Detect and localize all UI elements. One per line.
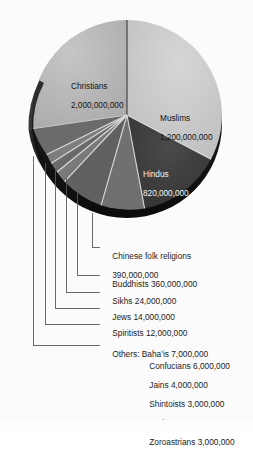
callout-others-zoroastrians: Zoroastrians 3,000,000 bbox=[149, 437, 234, 447]
pie-label-hindus: Hindus 820,000,000 bbox=[134, 160, 189, 208]
pie-label-hindus-value: 820,000,000 bbox=[143, 188, 189, 198]
pie-label-hindus-name: Hindus bbox=[143, 169, 169, 179]
callout-others-jains: Jains 4,000,000 bbox=[149, 380, 208, 390]
pie-label-muslims-value: 1,200,000,000 bbox=[160, 132, 212, 142]
callout-chinese-name: Chinese folk religions bbox=[112, 251, 191, 261]
pie-label-christians: Christians 2,000,000,000 bbox=[62, 72, 123, 120]
pie-label-christians-value: 2,000,000,000 bbox=[71, 100, 123, 110]
callout-others-confucians: Confucians 6,000,000 bbox=[149, 361, 230, 371]
callout-others-breakdown: Confucians 6,000,000 Jains 4,000,000 Shi… bbox=[140, 352, 235, 451]
pie-label-christians-name: Christians bbox=[71, 81, 107, 91]
leader-line-chinese bbox=[92, 213, 100, 247]
callout-others-shintoists: Shintoists 3,000,000 bbox=[149, 399, 224, 409]
page-bottom-margin bbox=[0, 420, 253, 432]
callout-spiritists-text: Spiritists 12,000,000 bbox=[112, 328, 187, 338]
pie-label-muslims-name: Muslims bbox=[160, 113, 190, 123]
pie-label-muslims: Muslims 1,200,000,000 bbox=[151, 104, 212, 152]
